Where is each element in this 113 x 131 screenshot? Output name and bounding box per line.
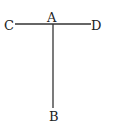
geometry-diagram: A C D B [0, 0, 113, 131]
label-b: B [49, 109, 59, 124]
label-a: A [46, 10, 57, 25]
label-d: D [91, 18, 101, 33]
label-c: C [4, 18, 14, 33]
